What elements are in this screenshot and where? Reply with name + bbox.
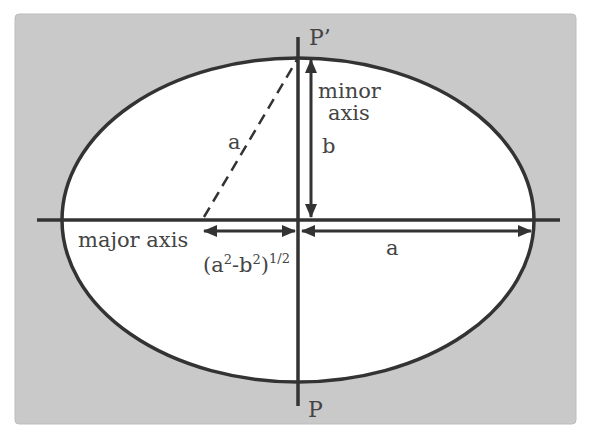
- point-p-prime-label: P’: [309, 25, 331, 50]
- minor-axis-label-line1: minor: [318, 79, 382, 103]
- minor-axis-label-line2: axis: [328, 101, 370, 125]
- semi-minor-b-label: b: [322, 134, 335, 158]
- major-axis-label: major axis: [78, 228, 188, 252]
- semi-major-a-label: a: [386, 236, 399, 260]
- hypotenuse-a-label: a: [228, 130, 241, 154]
- ellipse-diagram: P’ P minor axis b a major axis (a2-b2)1/…: [0, 0, 593, 438]
- point-p-label: P: [308, 397, 323, 422]
